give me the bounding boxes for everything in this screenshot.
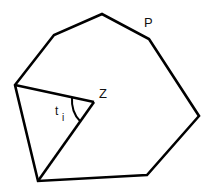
label-p: P [144, 15, 153, 30]
segment-vertex-to-z [15, 85, 94, 102]
label-z: Z [99, 86, 107, 101]
label-t: t [55, 104, 59, 118]
polygon-p [15, 14, 199, 181]
segment-z-to-vertex [38, 102, 94, 181]
polygon-diagram: P Z t i [0, 0, 205, 188]
angle-arc [72, 97, 80, 121]
label-i: i [62, 112, 64, 123]
